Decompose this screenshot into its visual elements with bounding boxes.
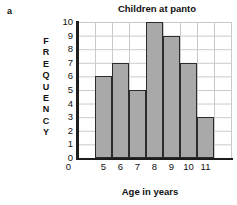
bar-5 — [95, 76, 112, 158]
x-tick-9: 9 — [163, 161, 180, 173]
y-axis-label-char-8: Y — [43, 127, 49, 138]
y-axis-label-char-4: U — [43, 82, 50, 93]
y-tick-9: 9 — [56, 31, 73, 41]
y-tick-3: 3 — [56, 112, 73, 122]
part-label: a — [7, 6, 12, 16]
chart-title: Children at panto — [77, 3, 237, 14]
y-tick-7: 7 — [56, 58, 73, 68]
bar-11 — [197, 117, 214, 158]
y-tick-8: 8 — [56, 44, 73, 54]
y-axis-label-char-3: Q — [42, 70, 49, 81]
y-axis-label-char-7: C — [43, 116, 50, 127]
x-tick-5: 5 — [95, 161, 112, 173]
y-tick-5: 5 — [56, 85, 73, 95]
x-tick-11: 11 — [197, 161, 214, 173]
bar-10 — [180, 63, 197, 158]
x-axis-label: Age in years — [70, 186, 230, 197]
y-tick-6: 6 — [56, 71, 73, 81]
y-axis-label-char-5: E — [43, 93, 49, 104]
x-axis-origin-label: 0 — [60, 161, 77, 173]
x-axis-line — [76, 158, 233, 161]
grid-right-border — [231, 22, 232, 158]
y-axis-label-char-0: F — [43, 36, 49, 47]
y-axis-label-char-1: R — [43, 47, 50, 58]
y-axis-label: FREQUENCY — [40, 36, 52, 139]
bar-8 — [146, 22, 163, 158]
x-axis-tick-labels: 567891011 — [78, 161, 231, 174]
y-axis-label-char-6: N — [43, 104, 50, 115]
y-axis-label-char-2: E — [43, 59, 49, 70]
y-axis-line — [76, 21, 79, 160]
bar-7 — [129, 90, 146, 158]
y-tick-10: 10 — [56, 17, 73, 27]
y-tick-2: 2 — [56, 126, 73, 136]
bar-series — [78, 22, 231, 158]
plot-area — [78, 22, 231, 158]
y-tick-4: 4 — [56, 99, 73, 109]
bar-6 — [112, 63, 129, 158]
x-tick-7: 7 — [129, 161, 146, 173]
bar-9 — [163, 36, 180, 158]
x-tick-6: 6 — [112, 161, 129, 173]
x-tick-8: 8 — [146, 161, 163, 173]
y-axis-tick-labels: 109876543210 — [56, 0, 73, 205]
x-tick-10: 10 — [180, 161, 197, 173]
y-tick-1: 1 — [56, 139, 73, 149]
